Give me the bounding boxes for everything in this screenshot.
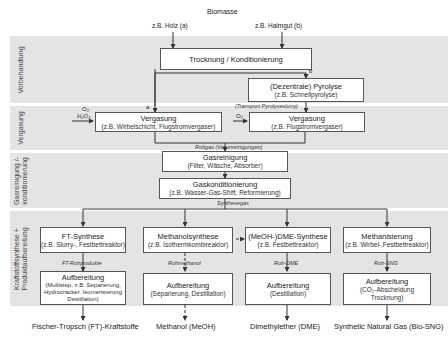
box-aufbereitung-dme: Aufbereitung (Destillation) [245, 273, 331, 305]
box-methanisierung: Methanisierung (z.B. Wirbel-,Festbettrea… [343, 227, 431, 253]
box-pyrolyse: (Dezentrale) Pyrolyse (z.B. Schnellpyrol… [248, 78, 364, 102]
input-holz: z.B. Holz (a) [152, 22, 188, 29]
label-o2-a: O₂ [82, 106, 89, 112]
label-h2o2: H₂O₂ [77, 113, 91, 119]
label-rohmethanol: Rohmethanol [168, 260, 201, 266]
output-ft: Fischer-Tropsch (FT)-Kraftstoffe [32, 322, 139, 331]
output-sng: Synthetic Natural Gas (Bio-SNG) [334, 322, 444, 331]
label-rohgas: Rohgas (Verunreinigungen) [195, 144, 262, 150]
box-trocknung: Trocknung / Konditionierung [160, 48, 312, 70]
label-o2-b: O₂ [236, 113, 243, 119]
box-aufbereitung-sng: Aufbereitung (CO₂-Abscheidung Trocknung) [343, 273, 431, 305]
box-vergasung-b: Vergasung (z.B. Flugstromvergaser) [249, 112, 365, 132]
input-halmgut: z.B. Halmgut (b) [255, 22, 302, 29]
label-ft-roh: FT-Rohprodukte [62, 260, 102, 266]
box-gasreinigung: Gasreinigung (Filter, Wäsche, Absorber) [162, 151, 288, 172]
label-synthesegas: Synthesegas [217, 200, 249, 206]
output-methanol: Methanol (MeOH) [156, 322, 216, 331]
label-branch-b: b [309, 68, 312, 74]
title-biomasse: Biomasse [207, 8, 238, 15]
label-transport: (Transport Pyrolyseslurry) [235, 103, 298, 109]
box-aufbereitung-ft: Aufbereitung (Multistep, z.B. Separierun… [40, 271, 126, 305]
box-ft-synthese: FT-Synthese (z.B. Slurry-, Festbettreakt… [40, 227, 126, 253]
box-dme-synthese: (MeOH-)DME-Synthese (z.B. Festbettreakto… [245, 227, 331, 253]
label-roh-dme: Roh-DME [274, 260, 298, 266]
box-gaskonditionierung: Gaskonditionierung (z.B. Wasser-Gas-Shif… [159, 178, 291, 199]
box-methanolsynthese: Methanolsynthese (z.B. Isothermkombireak… [143, 227, 233, 253]
label-roh-sng: Roh-SNG [374, 260, 398, 266]
box-aufbereitung-meoh: Aufbereitung (Separierung, Destillation) [143, 273, 233, 305]
label-branch-a: a [146, 104, 149, 110]
output-dme: Dimethylether (DME) [250, 322, 320, 331]
box-vergasung-a: Vergasung (z.B. Wirbelschicht, Flugstrom… [95, 112, 222, 132]
